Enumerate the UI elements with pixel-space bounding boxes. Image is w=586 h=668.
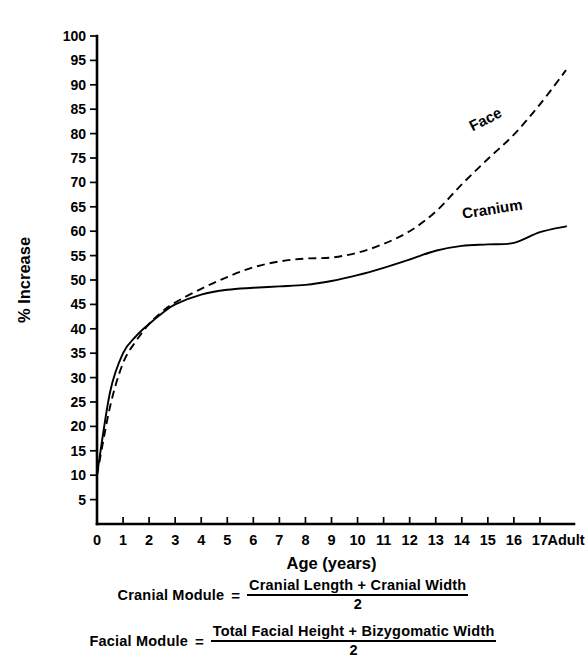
x-axis-tick-label-group: 01234567891011121314151617Adult bbox=[93, 532, 585, 548]
y-axis-tick-label: 25 bbox=[70, 394, 86, 410]
formula-cranial-module-denominator: 2 bbox=[354, 596, 362, 612]
x-axis-tick-label: 0 bbox=[93, 532, 101, 548]
x-axis-tick-label: 10 bbox=[349, 532, 365, 548]
y-axis-tick-label: 45 bbox=[70, 296, 86, 312]
x-axis-title: Age (years) bbox=[287, 554, 377, 572]
y-axis-tick-label: 90 bbox=[70, 77, 86, 93]
x-axis-tick-label: Adult bbox=[547, 532, 584, 548]
y-axis-tick-label: 60 bbox=[70, 223, 86, 239]
series-label-face: Face bbox=[466, 104, 504, 135]
formula-facial-module-equals: = bbox=[188, 633, 211, 650]
x-axis-tick-label: 3 bbox=[171, 532, 179, 548]
y-axis-tick-label: 70 bbox=[70, 174, 86, 190]
formula-facial-module-label: Facial Module bbox=[90, 633, 188, 649]
x-axis-tick-label: 12 bbox=[402, 532, 418, 548]
x-axis-tick-label: 8 bbox=[301, 532, 309, 548]
y-axis-tick-label: 20 bbox=[70, 418, 86, 434]
formula-cranial-module-fraction: Cranial Length + Cranial Width 2 bbox=[247, 578, 468, 612]
x-axis-tick-label: 13 bbox=[428, 532, 444, 548]
y-axis-tick-label: 85 bbox=[70, 101, 86, 117]
x-axis-tick-label: 14 bbox=[454, 532, 470, 548]
y-axis-tick-label: 5 bbox=[78, 492, 86, 508]
y-axis-tick-label: 100 bbox=[63, 28, 87, 44]
x-axis-tick-label: 5 bbox=[223, 532, 231, 548]
series-line-face bbox=[97, 70, 566, 475]
y-axis-tick-label: 50 bbox=[70, 272, 86, 288]
x-axis-tick-label: 7 bbox=[275, 532, 283, 548]
x-axis-tick-label: 11 bbox=[376, 532, 391, 548]
x-axis-tick-label: 17 bbox=[532, 532, 548, 548]
formula-block: Cranial Module = Cranial Length + Crania… bbox=[0, 572, 586, 664]
x-axis-tick-label: 4 bbox=[197, 532, 205, 548]
y-axis-tick-label: 30 bbox=[70, 370, 86, 386]
x-axis-tick-label: 1 bbox=[119, 532, 127, 548]
series-line-cranium bbox=[97, 226, 566, 475]
formula-facial-module: Facial Module = Total Facial Height + Bi… bbox=[0, 618, 586, 664]
formula-facial-module-numerator: Total Facial Height + Bizygomatic Width bbox=[211, 624, 497, 642]
y-axis-tick-label: 80 bbox=[70, 126, 86, 142]
formula-cranial-module-label: Cranial Module bbox=[118, 587, 225, 603]
series-label-cranium: Cranium bbox=[461, 196, 524, 222]
y-axis-tick-label: 40 bbox=[70, 321, 86, 337]
growth-chart-figure: 5101520253035404550556065707580859095100… bbox=[0, 0, 586, 668]
x-axis-tick-label: 16 bbox=[506, 532, 522, 548]
y-axis-tick-label: 75 bbox=[70, 150, 86, 166]
y-axis-tick-label: 35 bbox=[70, 345, 86, 361]
y-axis-tick-label: 10 bbox=[70, 467, 86, 483]
x-axis-tick-label: 6 bbox=[249, 532, 257, 548]
formula-cranial-module-numerator: Cranial Length + Cranial Width bbox=[247, 578, 468, 596]
x-axis-tick-label: 15 bbox=[480, 532, 496, 548]
y-axis-tick-label: 95 bbox=[70, 52, 86, 68]
y-axis-tick-label: 15 bbox=[70, 443, 86, 459]
formula-facial-module-denominator: 2 bbox=[350, 642, 358, 658]
y-axis-tick-label: 65 bbox=[70, 199, 86, 215]
formula-facial-module-fraction: Total Facial Height + Bizygomatic Width … bbox=[211, 624, 497, 658]
formula-cranial-module: Cranial Module = Cranial Length + Crania… bbox=[0, 572, 586, 618]
formula-cranial-module-equals: = bbox=[224, 587, 247, 604]
x-axis-tick-label: 2 bbox=[145, 532, 153, 548]
x-axis-tick-label: 9 bbox=[327, 532, 335, 548]
y-axis-title: % Increase bbox=[15, 237, 33, 323]
y-axis-tick-label: 55 bbox=[70, 248, 86, 264]
y-axis-tick-label-group: 5101520253035404550556065707580859095100 bbox=[63, 28, 87, 508]
chart-plot-area: 5101520253035404550556065707580859095100… bbox=[0, 0, 586, 668]
